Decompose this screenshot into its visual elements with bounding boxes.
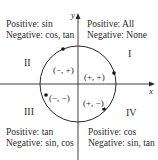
sign-pair-quadrant-ii: (−, +) <box>53 65 74 75</box>
y-axis-arrow-icon <box>76 13 81 19</box>
y-axis-label: y <box>71 11 75 20</box>
quadrant-i-numeral: I <box>128 49 131 59</box>
x-axis-label: x <box>149 87 153 96</box>
quadrant-ii-numeral: II <box>24 58 31 68</box>
point-quadrant-iii <box>44 93 48 97</box>
quadrant-iii-negative: Negative: sin, cos <box>6 138 74 149</box>
point-quadrant-ii <box>61 47 65 51</box>
quadrant-iv-negative: Negative: sin, tan <box>88 138 155 149</box>
quadrant-ii-positive: Positive: sin <box>6 19 53 30</box>
quadrant-iv-positive: Positive: cos <box>88 127 136 138</box>
point-quadrant-i <box>112 71 116 75</box>
quadrant-iii-numeral: III <box>24 107 34 117</box>
quadrant-ii-negative: Negative: cos, tan <box>6 30 74 41</box>
quadrant-i-positive: Positive: All <box>87 19 134 30</box>
sign-pair-quadrant-iii: (−, −) <box>49 93 70 103</box>
quadrant-iii-positive: Positive: tan <box>6 127 53 138</box>
quadrant-i-negative: Negative: None <box>87 30 147 41</box>
sign-pair-quadrant-iv: (+, −) <box>83 98 104 108</box>
sign-pair-quadrant-i: (+, +) <box>84 72 105 82</box>
quadrant-iv-numeral: IV <box>126 108 137 118</box>
